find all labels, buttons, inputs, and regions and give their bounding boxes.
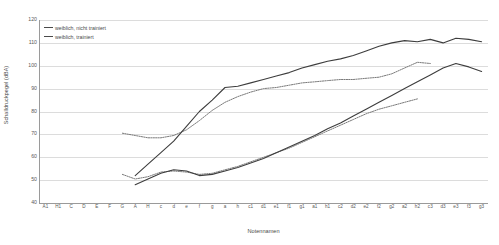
legend-item-label: weiblich, trainiert: [55, 34, 94, 40]
chart-container: 405060708090100110120 Schalldruckpegel (…: [0, 0, 499, 245]
series-line: [135, 38, 481, 175]
x-axis-title: Notennamen: [39, 228, 488, 234]
legend-item: weiblich, trainiert: [44, 32, 106, 41]
x-axis-tick-labels: A1H1CDEFGAHcdefgahc1d1e1f1g1a1h1c2d2e2f2…: [39, 205, 488, 217]
y-axis-title: Schalldruckpegel (dBA): [3, 35, 9, 155]
legend-line-icon: [44, 36, 53, 37]
y-axis-tick-label: 50: [3, 177, 37, 182]
series-line: [135, 64, 481, 185]
y-axis-line: [39, 20, 40, 204]
y-axis-tick-label: 120: [3, 17, 37, 22]
legend-item: weiblich, nicht trainiert: [44, 23, 106, 32]
legend-item-label: weiblich, nicht trainiert: [55, 25, 106, 31]
y-axis-tick-label: 60: [3, 154, 37, 159]
chart-legend: weiblich, nicht trainiert weiblich, trai…: [44, 23, 106, 41]
series-layer: [39, 20, 488, 203]
series-line: [122, 99, 417, 179]
x-axis-tick-label: g3: [472, 205, 492, 210]
plot-area: [39, 20, 488, 203]
legend-line-icon: [44, 27, 53, 28]
y-axis-tick-label: 40: [3, 200, 37, 205]
